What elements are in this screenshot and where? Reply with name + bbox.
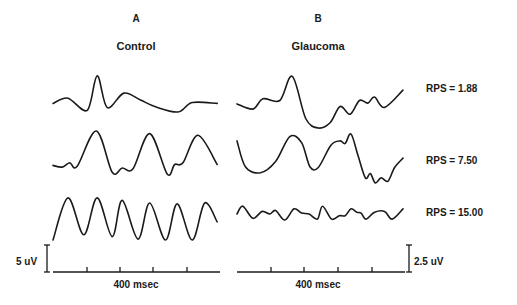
rps-label-row-2: RPS = 7.50	[426, 155, 478, 166]
right-amplitude-label: 2.5 uV	[414, 256, 444, 267]
left-scale-bar: 5 uV 400 msec	[16, 245, 220, 290]
right-time-label: 400 msec	[295, 279, 340, 290]
right-scale-bar: 2.5 uV 400 msec	[237, 245, 444, 290]
figure-canvas: A Control B Glaucoma RPS = 1.88 RPS = 7.…	[0, 0, 517, 305]
waveform-traces	[53, 76, 403, 240]
waveform-control-rps-15	[53, 198, 217, 240]
left-time-label: 400 msec	[113, 279, 158, 290]
waveform-control-rps-7-5	[53, 131, 217, 175]
left-time-ticks	[87, 267, 187, 272]
panel-a-letter: A	[132, 13, 139, 24]
waveform-glaucoma-rps-7-5	[237, 134, 403, 183]
rps-label-row-3: RPS = 15.00	[426, 207, 483, 218]
waveform-control-rps-1-88	[53, 76, 217, 112]
left-amplitude-label: 5 uV	[16, 256, 37, 267]
panel-b-title: Glaucoma	[291, 40, 345, 52]
panel-a-title: Control	[116, 40, 155, 52]
right-time-ticks	[271, 267, 372, 272]
panel-b-letter: B	[314, 13, 321, 24]
waveform-glaucoma-rps-1-88	[237, 76, 403, 128]
waveform-glaucoma-rps-15	[237, 206, 403, 220]
rps-label-row-1: RPS = 1.88	[426, 83, 478, 94]
